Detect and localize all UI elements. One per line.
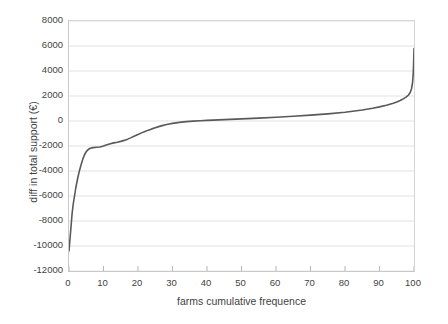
y-axis-title: diff in total support (€) [27, 57, 39, 247]
x-axis-tick-labels: 0102030405060708090100 [0, 0, 448, 324]
x-axis-title: farms cumulative frequence [68, 295, 415, 307]
x-tick-label: 100 [393, 278, 433, 288]
chart-container: -12000-10000-8000-6000-4000-200002000400… [0, 0, 448, 324]
